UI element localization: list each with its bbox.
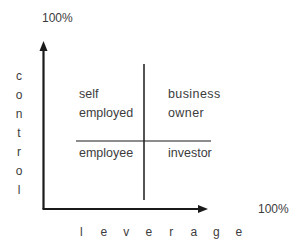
x-axis-arrowhead bbox=[198, 205, 208, 213]
y-axis-letter: l bbox=[14, 181, 24, 200]
quadrant-bottom-right-line1: investor bbox=[168, 144, 212, 163]
x-axis-letter: e bbox=[138, 225, 161, 239]
x-axis-letter: r bbox=[160, 225, 183, 239]
x-axis-max-label: 100% bbox=[258, 202, 289, 216]
x-axis-title: l e v e r a g e bbox=[70, 225, 250, 239]
quadrant-top-right-line2: owner bbox=[168, 104, 221, 123]
quadrant-top-right-line1: business bbox=[168, 85, 221, 104]
x-axis-letter: e bbox=[93, 225, 116, 239]
y-axis-letter: t bbox=[14, 124, 24, 143]
quadrant-top-left-line1: self bbox=[79, 85, 133, 104]
quadrant-top-right: business owner bbox=[168, 85, 221, 123]
quadrant-top-left: self employed bbox=[79, 85, 133, 123]
y-axis-letter: c bbox=[14, 67, 24, 86]
x-axis-letter: e bbox=[228, 225, 251, 239]
x-axis-letter: v bbox=[115, 225, 138, 239]
quadrant-bottom-right: investor bbox=[168, 144, 212, 163]
quadrant-bottom-left: employee bbox=[79, 144, 133, 163]
x-axis-letter: g bbox=[205, 225, 228, 239]
y-axis-letter: o bbox=[14, 162, 24, 181]
quadrant-top-left-line2: employed bbox=[79, 104, 133, 123]
y-axis-letter: o bbox=[14, 86, 24, 105]
y-axis-max-label: 100% bbox=[42, 11, 73, 25]
quadrant-bottom-left-line1: employee bbox=[79, 144, 133, 163]
diagram-lines bbox=[0, 0, 300, 247]
y-axis-letter: n bbox=[14, 105, 24, 124]
y-axis-arrowhead bbox=[40, 41, 48, 51]
x-axis-letter: a bbox=[183, 225, 206, 239]
y-axis-title: c o n t r o l bbox=[14, 67, 24, 200]
y-axis-letter: r bbox=[14, 143, 24, 162]
x-axis-letter: l bbox=[70, 225, 93, 239]
